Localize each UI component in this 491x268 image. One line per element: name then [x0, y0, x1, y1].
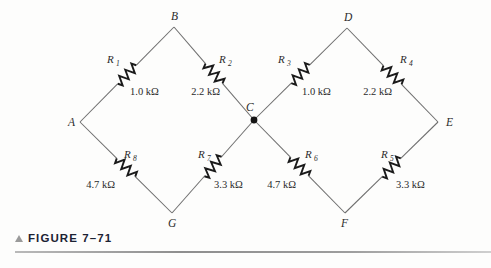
resistor-value-r5: 3.3 kΩ — [396, 179, 425, 190]
resistor-subscript-r7: 7 — [207, 154, 211, 163]
resistor-subscript-r5: 5 — [390, 154, 394, 163]
resistor-designator-r2: R — [218, 53, 226, 65]
node-label-d: D — [343, 11, 353, 23]
resistor-symbol-r4 — [382, 66, 404, 85]
resistor-value-r8: 4.7 kΩ — [86, 179, 115, 190]
resistor-subscript-r8: 8 — [133, 154, 137, 163]
resistor-value-r1: 1.0 kΩ — [130, 86, 159, 97]
resistor-symbol-r2 — [203, 64, 224, 84]
figure-page: R11.0 kΩR22.2 kΩR31.0 kΩR42.2 kΩR53.3 kΩ… — [0, 0, 491, 268]
figure-caption-label: FIGURE 7–71 — [28, 232, 112, 244]
wire-segment — [254, 120, 290, 157]
resistor-subscript-r4: 4 — [409, 59, 413, 68]
resistor-value-r3: 1.0 kΩ — [302, 86, 331, 97]
wires-group — [80, 27, 438, 213]
resistor-subscript-r2: 2 — [228, 59, 232, 68]
wire-segment — [172, 176, 204, 213]
node-label-g: G — [168, 217, 177, 229]
wire-segment — [347, 28, 383, 66]
junction-dot-c — [251, 117, 258, 124]
resistor-value-r2: 2.2 kΩ — [191, 86, 220, 97]
resistor-value-r6: 4.7 kΩ — [267, 179, 296, 190]
wire-segment — [174, 27, 206, 64]
resistor-subscript-r6: 6 — [314, 154, 318, 163]
caption-divider — [15, 251, 491, 253]
resistor-value-r4: 2.2 kΩ — [363, 86, 392, 97]
wire-segment — [80, 84, 118, 122]
resistor-subscript-r3: 3 — [286, 59, 291, 68]
triangle-marker-icon — [15, 235, 23, 242]
resistor-subscript-r1: 1 — [116, 59, 120, 68]
wire-segment — [345, 177, 382, 213]
resistor-symbol-r1 — [118, 64, 136, 86]
circuit-diagram: R11.0 kΩR22.2 kΩR31.0 kΩR42.2 kΩR53.3 kΩ… — [0, 0, 491, 268]
resistor-designator-r5: R — [380, 148, 388, 160]
node-label-a: A — [67, 116, 76, 128]
resistor-designator-r8: R — [123, 148, 131, 160]
wire-segment — [401, 122, 438, 158]
node-label-b: B — [171, 10, 178, 22]
node-label-e: E — [445, 116, 453, 128]
nodes-group: ABCDEFG — [67, 10, 453, 229]
wire-segment — [80, 122, 117, 158]
node-label-c: C — [246, 101, 254, 113]
resistor-designator-r3: R — [277, 53, 285, 65]
wire-segment — [136, 27, 174, 65]
figure-caption-bar: FIGURE 7–71 — [0, 232, 491, 268]
resistor-value-r7: 3.3 kΩ — [214, 179, 243, 190]
resistor-designator-r6: R — [304, 148, 312, 160]
resistor-symbol-r3 — [291, 63, 309, 85]
resistor-designator-r7: R — [197, 148, 205, 160]
resistor-designator-r1: R — [106, 53, 114, 65]
wire-segment — [254, 83, 291, 120]
wire-segment — [222, 120, 254, 157]
wire-segment — [402, 84, 438, 122]
wire-segment — [309, 176, 345, 213]
resistor-designator-r4: R — [399, 53, 407, 65]
wire-segment — [310, 28, 347, 65]
caption-row: FIGURE 7–71 — [15, 232, 112, 244]
node-label-f: F — [340, 217, 349, 229]
wire-segment — [135, 177, 172, 213]
